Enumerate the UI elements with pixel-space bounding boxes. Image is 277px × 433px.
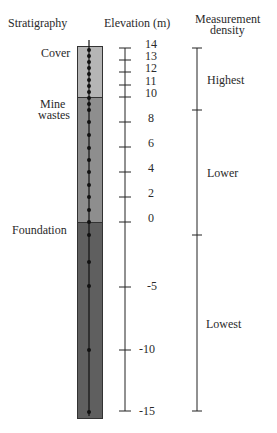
elev-label: -15 [139,405,155,417]
elev-label: 6 [148,137,154,149]
elevation-axis [119,48,131,411]
elev-label: -10 [139,343,155,355]
density-label-lowest: Lowest [206,318,241,330]
diagram-graphics [0,0,277,433]
density-label-highest: Highest [207,74,244,86]
elev-label: 4 [148,162,154,174]
elev-label: -5 [147,280,157,292]
elev-label: 2 [148,187,154,199]
elev-label: 12 [145,62,157,74]
density-axis [192,48,202,411]
density-label-lower: Lower [207,167,238,179]
elev-label: 8 [148,112,154,124]
elev-label: 0 [148,212,154,224]
elev-label: 10 [145,87,157,99]
